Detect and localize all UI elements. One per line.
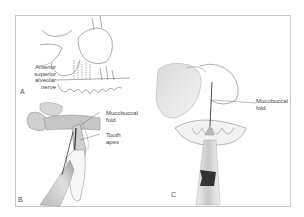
panel-letter-b: B: [18, 196, 23, 203]
label-anterior-superior-alveolar-nerve: Anterior superior alveolar nerve: [18, 64, 56, 90]
panel-b-injection-illustration: [27, 102, 100, 206]
panel-letter-a: A: [20, 88, 25, 95]
label-mucobuccal-fold-b: Mucobuccal fold: [106, 110, 138, 123]
panel-c-injection-illustration: [156, 63, 256, 205]
panel-letter-c: C: [171, 191, 176, 198]
label-mucobuccal-fold-c: Mucobuccal fold: [256, 98, 288, 111]
label-tooth-apex: Tooth apex: [106, 132, 121, 145]
